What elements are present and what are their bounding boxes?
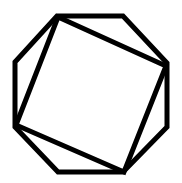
octagon-shape	[15, 16, 167, 172]
diagram-svg	[0, 0, 182, 183]
diagram-canvas	[0, 0, 182, 183]
